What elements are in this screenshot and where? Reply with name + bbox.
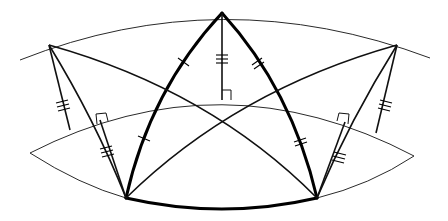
left-corner-to-bottom-left <box>49 45 126 198</box>
tick-triple-right-outer-3 <box>378 108 390 111</box>
lower-lens-bottom-arc-right <box>317 156 414 198</box>
right-angle-marker-top <box>222 90 231 100</box>
left-inner-altitude <box>100 120 126 198</box>
thick-side-left <box>126 13 222 198</box>
left-outer-altitude <box>49 45 70 130</box>
tick-triple-right-outer-1 <box>380 100 392 103</box>
lower-lens-bottom-arc-left <box>30 153 126 198</box>
cross-arc-left-to-bottom-right <box>49 45 317 198</box>
right-outer-altitude <box>376 45 397 133</box>
cross-arc-right-to-bottom-left <box>126 45 397 198</box>
spherical-triangle-diagram <box>0 0 448 221</box>
right-inner-altitude <box>317 122 345 198</box>
thick-side-bottom <box>126 198 317 209</box>
right-angle-marker-right <box>337 113 349 124</box>
tick-triple-right-outer-2 <box>379 104 391 107</box>
